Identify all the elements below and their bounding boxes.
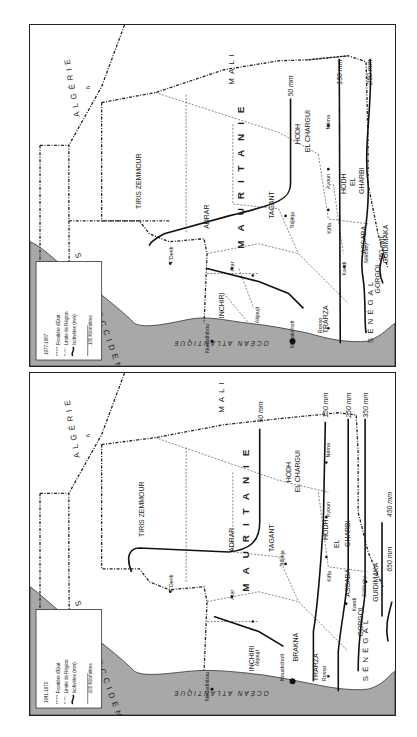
legend-item-state: Frontière d'Etat — [56, 314, 61, 345]
label-ocean: OCÉAN ATLANTIQUE — [172, 339, 268, 348]
city-rosso: Rosso — [321, 666, 327, 681]
map-1941-1970: ALGÉRIE MALI TIRIS ZEMMOUR ADRAR MAURITA… — [29, 372, 396, 716]
label-senegal: SÉNÉGAL — [361, 616, 370, 681]
label-mali: MALI — [217, 378, 226, 412]
isohyet-150: 150 mm — [336, 59, 343, 84]
city-ayoun: Ayoun — [325, 174, 331, 189]
label-trarza: TRARZA — [312, 653, 319, 681]
city-akjoujt: Akjoujt — [254, 649, 260, 666]
label-assaba: ASSABA — [344, 569, 351, 597]
city-tidjikja: Tidjikja — [279, 549, 285, 567]
legend-item-state: Frontière d'Etat — [56, 662, 61, 693]
label-brakna: BRAKNA — [292, 632, 299, 661]
label-hodh-ec-2: EL CHARGUI — [304, 110, 311, 152]
city-tidjikja: Tidjikja — [289, 211, 295, 229]
isohyet-650: 650 mm — [386, 547, 393, 572]
legend-scale: 100 Kilomètres — [88, 663, 93, 694]
map-canvas: ALGÉRIE MALI TIRIS ZEMMOUR ADRAR MAURITA… — [30, 373, 395, 715]
isohyet-250: 250 mm — [345, 392, 352, 418]
legend-item-region: Limite de Région — [64, 311, 69, 345]
label-algerie: ALGÉRIE — [62, 55, 82, 118]
city-atar: Atar — [229, 589, 235, 599]
legend-item-isohyet: Isohyètes (mm) — [72, 662, 77, 693]
isohyet-50: 50 mm — [287, 75, 294, 96]
label-mali: MALI — [227, 50, 236, 84]
city-rosso: Rosso — [317, 318, 323, 333]
label-hodh-eg-3: GHARBI — [358, 167, 365, 194]
label-hodh-eg-1: HODH — [340, 174, 347, 194]
label-ocean: OCÉAN ATLANTIQUE — [172, 689, 268, 698]
city-nouadhibou: Nouadhibou — [204, 324, 210, 353]
city-akjoujt: Akjoujt — [254, 306, 260, 323]
label-hodh-ec-1: HODH — [285, 462, 292, 482]
legend-item-region: Limite de Région — [64, 659, 69, 693]
city-markers — [169, 124, 365, 344]
legend-scale: 100 Kilomètres — [88, 315, 93, 346]
legend-period: 1977-1987 — [44, 333, 49, 355]
city-atar: Atar — [229, 261, 235, 271]
city-kiffa: Kiffa — [326, 222, 332, 234]
label-hodh-eg-1: HODH — [322, 520, 329, 540]
city-kiffa: Kiffa — [326, 570, 332, 582]
map-1977-1987: ALGÉRIE MALI TIRIS ZEMMOUR ADRAR MAURITA… — [29, 24, 396, 367]
city-selibaby: Sélibaby — [363, 242, 369, 263]
isohyet-350: 350 mm — [378, 236, 385, 261]
label-guidimaka: GUIDIMAKA — [372, 562, 379, 601]
isohyet-250: 250 mm — [366, 59, 373, 85]
label-hodh-ec-1: HODH — [294, 124, 301, 144]
label-hodh-eg-2: EL — [333, 539, 340, 548]
city-fderik: F'Derik — [168, 574, 174, 591]
label-tagant: TAGANT — [268, 190, 275, 218]
label-gorgol: GORGOL — [374, 263, 381, 294]
label-algerie: ALGÉRIE — [62, 396, 82, 459]
city-nema: Néma — [325, 442, 331, 458]
label-hodh-ec-2: EL CHARGUI — [294, 450, 301, 492]
city-nouakchott: Nouakchott — [279, 653, 285, 681]
isohyets — [149, 59, 383, 343]
city-ayoun: Ayoun — [325, 502, 331, 517]
map-canvas: ALGÉRIE MALI TIRIS ZEMMOUR ADRAR MAURITA… — [30, 25, 395, 366]
label-mauritanie: MAURITANIE — [240, 441, 251, 592]
legend-north: N — [86, 85, 91, 88]
isohyet-50: 50 mm — [257, 401, 264, 422]
city-fderik: F'Derik — [168, 246, 174, 263]
label-inchiri: INCHIRI — [218, 292, 225, 318]
label-tiris-zemmour: TIRIS ZEMMOUR — [135, 153, 142, 209]
label-adrar: ADRAR — [228, 528, 235, 552]
label-tagant: TAGANT — [268, 524, 275, 552]
label-hodh-eg-3: GHARBI — [344, 520, 351, 547]
city-kaedi: Kaedi — [351, 598, 357, 612]
isohyet-450: 450 mm — [386, 492, 393, 517]
label-adrar: ADRAR — [203, 205, 210, 229]
city-selibaby: Sélibaby — [361, 576, 367, 597]
isohyet-150: 150 mm — [322, 392, 329, 417]
legend-period: 1941-1970 — [44, 681, 49, 703]
label-hodh-eg-2: EL — [349, 177, 356, 186]
label-senegal: SÉNÉGAL — [366, 278, 375, 343]
legend-north: N — [86, 433, 91, 436]
city-nema: Néma — [325, 114, 331, 130]
city-kaedi: Kaedi — [341, 262, 347, 276]
label-tiris-zemmour: TIRIS ZEMMOUR — [138, 482, 145, 538]
isohyets — [129, 419, 392, 691]
isohyet-350: 350 mm — [362, 392, 369, 417]
label-mauritanie: MAURITANIE — [235, 98, 246, 249]
legend-item-isohyet: Isohyètes (mm) — [72, 314, 77, 345]
